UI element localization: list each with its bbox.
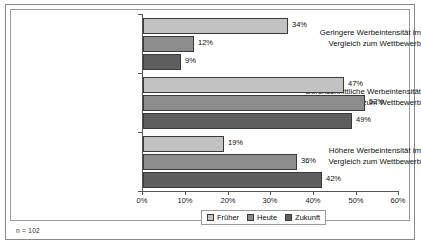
category-label-line: Vergleich zum Wettbewerb <box>293 39 421 50</box>
bar-geringere-frueher[interactable] <box>143 18 288 34</box>
x-axis-tick <box>142 191 143 195</box>
bar-value-hoehere-heute: 36% <box>301 156 316 165</box>
bar-value-durchschnittliche-zukunft: 49% <box>356 115 371 124</box>
category-label-line: Höhere Werbeintensität im <box>293 146 421 157</box>
legend-item-frueher[interactable]: Früher <box>207 213 239 222</box>
bar-value-hoehere-frueher: 19% <box>228 138 243 147</box>
x-axis-tick-label-10: 10% <box>170 196 200 205</box>
bar-value-durchschnittliche-frueher: 47% <box>348 79 363 88</box>
bar-value-geringere-frueher: 34% <box>292 20 307 29</box>
x-axis-tick <box>313 191 314 195</box>
x-axis-tick-label-40: 40% <box>298 196 328 205</box>
y-axis-tick <box>138 73 142 74</box>
category-label-geringere: Geringere Werbeintensität im Vergleich z… <box>293 28 421 49</box>
x-axis-tick-label-60: 60% <box>383 196 413 205</box>
legend-swatch-icon-heute <box>247 214 254 221</box>
chart-screenshot: 0% 10% 20% 30% 40% 50% 60% Geringere Wer… <box>0 0 421 246</box>
bar-hoehere-frueher[interactable] <box>143 136 224 152</box>
x-axis-tick-label-30: 30% <box>255 196 285 205</box>
legend-item-zukunft[interactable]: Zukunft <box>285 213 320 222</box>
bar-durchschnittliche-zukunft[interactable] <box>143 113 352 129</box>
x-axis-tick-label-20: 20% <box>213 196 243 205</box>
x-axis-tick <box>185 191 186 195</box>
legend-swatch-icon-frueher <box>207 214 214 221</box>
bar-geringere-zukunft[interactable] <box>143 54 181 70</box>
x-axis-tick-label-0: 0% <box>127 196 157 205</box>
bar-value-durchschnittliche-heute: 52% <box>369 97 384 106</box>
bar-hoehere-zukunft[interactable] <box>143 172 322 188</box>
bar-value-hoehere-zukunft: 42% <box>326 174 341 183</box>
x-axis-tick <box>228 191 229 195</box>
x-axis-tick <box>398 191 399 195</box>
bar-durchschnittliche-frueher[interactable] <box>143 77 344 93</box>
bar-value-geringere-heute: 12% <box>198 38 213 47</box>
bar-value-geringere-zukunft: 9% <box>185 56 196 65</box>
y-axis-tick <box>138 14 142 15</box>
x-axis-tick <box>270 191 271 195</box>
legend-label-frueher: Früher <box>217 213 239 222</box>
legend-item-heute[interactable]: Heute <box>247 213 277 222</box>
chart-legend: Früher Heute Zukunft <box>201 210 326 225</box>
category-label-line: Geringere Werbeintensität im <box>293 28 421 39</box>
legend-label-heute: Heute <box>257 213 277 222</box>
bar-geringere-heute[interactable] <box>143 36 194 52</box>
bar-hoehere-heute[interactable] <box>143 154 297 170</box>
y-axis-tick <box>138 132 142 133</box>
legend-swatch-icon-zukunft <box>285 214 292 221</box>
legend-label-zukunft: Zukunft <box>295 213 320 222</box>
sample-size-footnote: n = 102 <box>16 227 40 234</box>
x-axis-tick <box>356 191 357 195</box>
chart-plot-area: 0% 10% 20% 30% 40% 50% 60% Geringere Wer… <box>0 0 421 246</box>
bar-durchschnittliche-heute[interactable] <box>143 95 365 111</box>
x-axis-tick-label-50: 50% <box>341 196 371 205</box>
